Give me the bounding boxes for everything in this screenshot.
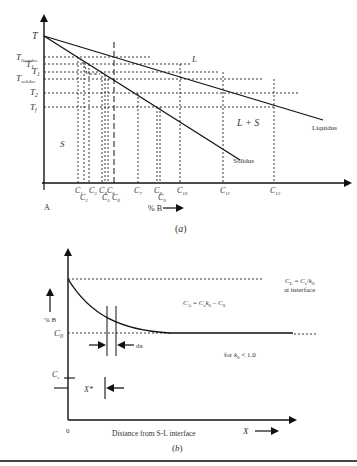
solidus-label: Solidus <box>233 157 254 165</box>
ca-equation: CA = Csk0 – C0 <box>183 299 226 308</box>
b-cs-label: Cs <box>52 370 59 380</box>
a-x-tick-labels: C1 C2 C3 C4 C5 C6 C0 C7 C8 C9 C10 C11 C1… <box>75 186 281 203</box>
svg-text:C3: C3 <box>89 186 97 196</box>
a-y-tick-labels: T Tliquidus T1 T1 Tsolidus T2 Tf <box>16 30 40 113</box>
tick-T-2: T2 <box>30 87 38 98</box>
region-liquid: L <box>191 54 197 64</box>
b-x-axis-symbol: X <box>242 426 249 436</box>
svg-text:C9: C9 <box>158 193 166 203</box>
b-origin-label: 0 <box>66 427 70 435</box>
interface-note: at interface <box>284 286 315 294</box>
region-solid: S <box>60 139 65 149</box>
phase-diagram-a: T Tliquidus T1 T1 Tsolidus T2 Tf C1 C2 C… <box>16 16 350 235</box>
liquidus-label: Liquidus <box>312 124 337 132</box>
a-x-label: % B <box>148 204 162 213</box>
tick-T-1: T1 <box>32 66 40 77</box>
caption-b: (b) <box>172 443 183 453</box>
condition-text: for k0 < 1.0 <box>224 351 256 360</box>
tick-T-f: Tf <box>30 102 38 113</box>
interface-equation: CL = Cs/k0 <box>285 277 315 286</box>
concentration-profile-b: dx % B C0 Cs X* 0 Distance from S-L inte… <box>44 250 316 453</box>
region-mushy: L + S <box>236 117 259 128</box>
b-c0-label: C0 <box>54 328 63 339</box>
b-y-label: % B <box>44 316 57 324</box>
svg-text:C11: C11 <box>220 186 230 196</box>
svg-text:C12: C12 <box>270 186 281 196</box>
solidus-line <box>44 36 240 160</box>
caption-a: (a) <box>175 223 187 235</box>
a-y-label-T: T <box>32 30 39 41</box>
b-x-label: Distance from S-L interface <box>112 429 196 438</box>
x-star-label: X* <box>83 385 93 394</box>
concentration-curve <box>68 279 293 333</box>
svg-text:C10: C10 <box>177 186 188 196</box>
dx-label: dx <box>136 342 144 350</box>
a-origin-label: A <box>44 203 50 212</box>
svg-text:C0: C0 <box>112 193 120 203</box>
bottom-rule <box>0 460 357 462</box>
svg-text:C7: C7 <box>134 186 142 196</box>
solidification-diagram: T Tliquidus T1 T1 Tsolidus T2 Tf C1 C2 C… <box>0 0 357 466</box>
svg-text:C2: C2 <box>80 193 88 203</box>
